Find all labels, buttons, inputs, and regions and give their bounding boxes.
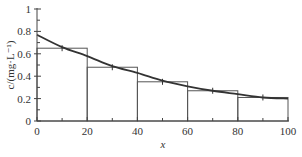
chart: 02040608010000.20.40.60.81 x c/(mg·L⁻¹) <box>0 0 302 157</box>
histogram-bar <box>188 91 238 121</box>
histogram-bar <box>37 48 87 121</box>
fitted-curve <box>37 35 288 101</box>
histogram-bar <box>238 97 288 121</box>
y-tick-label: 0.2 <box>17 93 31 105</box>
y-tick-label: 0.4 <box>17 70 31 82</box>
x-tick-label: 0 <box>34 125 40 137</box>
y-tick-label: 1 <box>26 3 32 15</box>
y-tick-label: 0 <box>26 115 32 127</box>
x-axis-label: x <box>160 138 166 150</box>
axes: 02040608010000.20.40.60.81 <box>17 3 297 137</box>
y-tick-label: 0.8 <box>17 25 31 37</box>
histogram-bar <box>137 82 187 121</box>
x-tick-label: 20 <box>82 125 94 137</box>
x-tick-label: 80 <box>232 125 244 137</box>
histogram-bar <box>87 67 137 121</box>
x-tick-label: 100 <box>280 125 297 137</box>
y-axis-label: c/(mg·L⁻¹) <box>4 40 17 89</box>
x-tick-label: 40 <box>132 125 144 137</box>
y-tick-label: 0.6 <box>17 48 31 60</box>
fitted-curve-line <box>37 35 288 99</box>
x-tick-label: 60 <box>182 125 194 137</box>
